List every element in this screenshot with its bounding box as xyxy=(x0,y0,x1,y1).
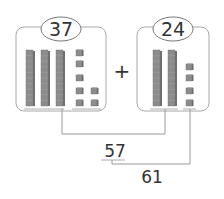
ten-rod xyxy=(41,50,50,106)
unit-cube-top xyxy=(92,87,98,88)
unit-cube-top xyxy=(187,63,193,64)
unit-cube-side xyxy=(82,50,84,56)
step1-connector xyxy=(62,109,165,134)
unit-cube xyxy=(186,99,194,106)
unit-cube-top xyxy=(187,87,193,88)
unit-cube xyxy=(186,87,194,94)
unit-cube xyxy=(91,87,99,94)
unit-cube-face xyxy=(76,50,82,56)
ten-rod xyxy=(168,50,177,106)
unit-cube-face xyxy=(186,75,192,81)
ten-rod xyxy=(56,50,65,106)
unit-cube-face xyxy=(91,88,97,94)
unit-cube-face xyxy=(76,100,82,106)
unit-cube-face xyxy=(186,88,192,94)
unit-cube-face xyxy=(76,75,82,81)
unit-cube-side xyxy=(82,75,84,81)
addend-b-blocks xyxy=(153,50,194,106)
unit-cube-side xyxy=(97,100,99,106)
ten-rod xyxy=(26,50,35,106)
addend-b-label: 24 xyxy=(161,18,185,40)
unit-cube xyxy=(76,49,84,56)
addend-a-label: 37 xyxy=(49,18,73,40)
unit-cube-side xyxy=(192,100,194,106)
unit-cube-face xyxy=(186,64,192,70)
unit-cube-top xyxy=(77,74,83,75)
ten-rod xyxy=(153,50,162,106)
unit-cube-top xyxy=(77,87,83,88)
addition-diagram: 37 24 + 57 61 xyxy=(0,0,224,199)
step2-result: 61 xyxy=(141,167,163,187)
unit-cube xyxy=(186,63,194,70)
unit-cube xyxy=(91,99,99,106)
unit-cube-top xyxy=(77,99,83,100)
ten-rod-side xyxy=(160,51,162,106)
ten-rod-side xyxy=(63,51,65,106)
unit-cube-face xyxy=(76,61,82,67)
unit-cube-side xyxy=(192,88,194,94)
unit-cube xyxy=(76,60,84,67)
ten-rod-side xyxy=(33,51,35,106)
unit-cube xyxy=(76,99,84,106)
unit-cube-face xyxy=(91,100,97,106)
addend-a-blocks xyxy=(26,49,99,106)
ten-rod-side xyxy=(48,51,50,106)
unit-cube-top xyxy=(187,74,193,75)
unit-cube xyxy=(186,74,194,81)
ten-rod-side xyxy=(175,51,177,106)
unit-cube-top xyxy=(77,49,83,50)
unit-cube-face xyxy=(76,88,82,94)
unit-cube-side xyxy=(82,61,84,67)
unit-cube-top xyxy=(92,99,98,100)
unit-cube-side xyxy=(192,64,194,70)
unit-cube-side xyxy=(82,88,84,94)
unit-cube-top xyxy=(187,99,193,100)
step1-result: 57 xyxy=(104,141,126,161)
unit-cube-face xyxy=(186,100,192,106)
unit-cube-top xyxy=(77,60,83,61)
plus-operator: + xyxy=(114,59,131,83)
unit-cube xyxy=(76,74,84,81)
unit-cube-side xyxy=(97,88,99,94)
unit-cube-side xyxy=(82,100,84,106)
unit-cube xyxy=(76,87,84,94)
unit-cube-side xyxy=(192,75,194,81)
